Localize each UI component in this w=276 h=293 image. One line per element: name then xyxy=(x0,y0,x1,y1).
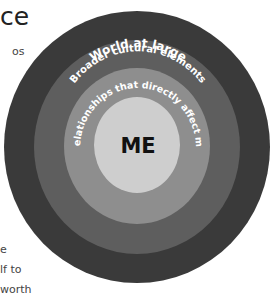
label-me: ME xyxy=(120,134,155,158)
concentric-circles-diagram: World at large Broader cultural elements… xyxy=(0,0,276,293)
